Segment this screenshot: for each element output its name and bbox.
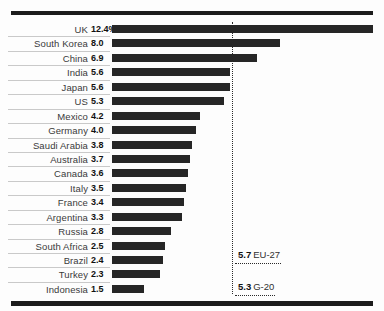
bar-row: UK12.4% (0, 22, 384, 36)
category-label: India (0, 66, 88, 79)
bar (112, 270, 160, 278)
category-label: Saudi Arabia (0, 139, 88, 152)
bar (112, 213, 182, 221)
bar-row: Saudi Arabia3.8 (0, 138, 384, 152)
annotation-g20-underline (235, 295, 275, 296)
value-label: 2.3 (91, 268, 110, 281)
bar (112, 141, 192, 149)
value-label: 4.0 (91, 124, 110, 137)
category-label: Mexico (0, 110, 88, 123)
category-label: Germany (0, 124, 88, 137)
category-label: Australia (0, 153, 88, 166)
value-label: 2.8 (91, 225, 110, 238)
value-label: 1.5 (91, 283, 110, 296)
value-label: 4.2 (91, 110, 110, 123)
value-label: 3.6 (91, 167, 110, 180)
bar-row: US5.3 (0, 94, 384, 108)
category-label: China (0, 52, 88, 65)
bar (112, 54, 257, 62)
category-label: Indonesia (0, 283, 88, 296)
value-label: 12.4% (91, 23, 110, 36)
bar (112, 256, 163, 264)
category-label: US (0, 95, 88, 108)
annotation-g20-label: G-20 (253, 281, 274, 292)
bar (112, 83, 230, 91)
top-rule (11, 11, 373, 15)
category-label: UK (0, 23, 88, 36)
category-label: Italy (0, 182, 88, 195)
value-label: 3.3 (91, 211, 110, 224)
bar-row: South Africa2.5 (0, 239, 384, 253)
annotation-eu27-underline (235, 263, 281, 264)
bar-row: Argentina3.3 (0, 210, 384, 224)
bar-row: South Korea8.0 (0, 36, 384, 50)
value-label: 3.5 (91, 182, 110, 195)
bar (112, 184, 186, 192)
bar-row: Italy3.5 (0, 181, 384, 195)
bar (112, 242, 165, 250)
bar (112, 126, 196, 134)
annotation-g20: 5.3G-20 (238, 281, 274, 293)
value-label: 5.6 (91, 66, 110, 79)
bar-rows-container: UK12.4%South Korea8.0China6.9India5.6Jap… (0, 22, 384, 296)
bar-row: Japan5.6 (0, 80, 384, 94)
bar (112, 112, 200, 120)
bar (112, 39, 280, 47)
bar-chart-figure: UK12.4%South Korea8.0China6.9India5.6Jap… (0, 0, 384, 311)
value-label: 2.5 (91, 240, 110, 253)
annotation-eu27: 5.7EU-27 (238, 249, 280, 261)
value-label: 5.3 (91, 95, 110, 108)
bar (112, 68, 230, 76)
category-label: South Africa (0, 240, 88, 253)
bar-row: Canada3.6 (0, 166, 384, 180)
value-label: 6.9 (91, 52, 110, 65)
value-label: 8.0 (91, 37, 110, 50)
annotation-eu27-label: EU-27 (253, 249, 280, 260)
bar-row: Germany4.0 (0, 123, 384, 137)
value-label: 3.8 (91, 139, 110, 152)
bar-row: France3.4 (0, 195, 384, 209)
category-label: Brazil (0, 254, 88, 267)
bar (112, 227, 171, 235)
bar-row: Indonesia1.5 (0, 282, 384, 296)
bar (112, 285, 144, 293)
annotation-g20-value: 5.3 (238, 281, 251, 292)
annotation-eu27-value: 5.7 (238, 249, 251, 260)
category-label: Japan (0, 81, 88, 94)
bottom-rule (11, 301, 373, 306)
bar (112, 97, 224, 105)
category-label: Canada (0, 167, 88, 180)
value-label: 5.6 (91, 81, 110, 94)
category-label: South Korea (0, 37, 88, 50)
value-label: 2.4 (91, 254, 110, 267)
bar-row: Russia2.8 (0, 224, 384, 238)
value-label: 3.4 (91, 196, 110, 209)
bar-row: Australia3.7 (0, 152, 384, 166)
bar-row: Brazil2.4 (0, 253, 384, 267)
category-label: Turkey (0, 268, 88, 281)
bar (112, 198, 184, 206)
bar (112, 169, 188, 177)
bar-row: Turkey2.3 (0, 267, 384, 281)
category-label: France (0, 196, 88, 209)
bar-row: China6.9 (0, 51, 384, 65)
value-label: 3.7 (91, 153, 110, 166)
bar (112, 25, 373, 33)
category-label: Russia (0, 225, 88, 238)
bar-row: Mexico4.2 (0, 109, 384, 123)
bar-row: India5.6 (0, 65, 384, 79)
category-label: Argentina (0, 211, 88, 224)
bar (112, 155, 190, 163)
